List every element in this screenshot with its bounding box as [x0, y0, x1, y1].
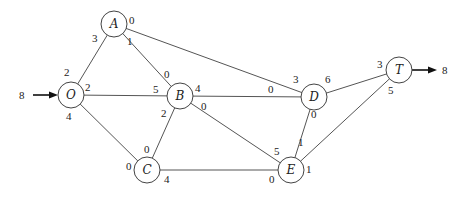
label-B-D-at-D: 0 — [268, 83, 274, 95]
label-B-E-at-B: 0 — [201, 100, 207, 112]
edge-A-B — [114, 24, 180, 96]
node-A: A — [101, 11, 127, 37]
label-A-D-at-D: 3 — [293, 73, 299, 85]
label-O-B-at-O: 2 — [85, 81, 91, 93]
edge-O-C — [71, 95, 147, 170]
label-E-T-at-T: 5 — [388, 84, 394, 96]
label-C-E-at-C: 4 — [164, 173, 170, 185]
node-C: C — [134, 157, 160, 183]
inflow-value: 8 — [19, 89, 25, 101]
node-T-label: T — [395, 63, 404, 77]
node-B-label: B — [175, 89, 185, 103]
edge-A-D — [114, 24, 314, 97]
node-C-label: C — [142, 163, 151, 177]
node-D: D — [301, 84, 327, 110]
node-O-label: O — [66, 88, 76, 102]
label-D-E-at-E: 1 — [298, 136, 304, 148]
node-A-label: A — [109, 17, 119, 31]
node-B: B — [167, 83, 193, 109]
label-A-D-at-A: 0 — [129, 14, 135, 26]
label-C-E-at-E: 0 — [269, 173, 275, 185]
node-E-label: E — [286, 163, 296, 177]
outflow-arrowhead-icon — [428, 67, 437, 74]
label-B-C-at-B: 2 — [161, 107, 167, 119]
label-O-A-at-A: 3 — [92, 32, 98, 44]
edge-B-D — [180, 96, 314, 97]
node-E: E — [278, 157, 304, 183]
label-D-T-at-T: 3 — [377, 58, 383, 70]
label-D-T-at-D: 6 — [325, 73, 331, 85]
label-O-B-at-B: 5 — [153, 83, 159, 95]
node-O: O — [58, 82, 84, 108]
node-D-label: D — [308, 90, 319, 104]
edge-O-B — [71, 95, 180, 96]
outflow-value: 8 — [442, 64, 448, 76]
label-E-T-at-E: 1 — [306, 163, 312, 175]
node-T: T — [386, 57, 412, 83]
label-B-D-at-B: 4 — [195, 82, 201, 94]
label-O-C-at-C: 0 — [126, 160, 132, 172]
network-diagram: 8 8 2 3 2 5 4 0 1 0 0 3 2 0 4 0 0 5 4 0 … — [0, 0, 466, 212]
label-O-C-at-O: 4 — [66, 110, 72, 122]
label-O-A-at-O: 2 — [64, 66, 70, 78]
inflow-arrowhead-icon — [49, 92, 58, 99]
label-B-C-at-C: 0 — [144, 143, 150, 155]
edge-B-E — [180, 96, 291, 170]
label-A-B-at-A: 1 — [127, 35, 133, 47]
label-A-B-at-B: 0 — [164, 68, 170, 80]
label-B-E-at-E: 5 — [274, 145, 280, 157]
